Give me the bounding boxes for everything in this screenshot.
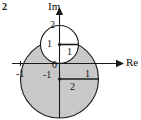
small-circle-radius-label: 1 [67, 47, 72, 57]
large-circle-center-dot [58, 77, 61, 80]
tick-label-im-two: 2 [50, 20, 55, 30]
figure-number-label: 2 [2, 2, 7, 12]
figure-container: 2 Im Re 0 2 1 1 -1 -1 1 2 [0, 0, 141, 120]
tick-label-im-one: 1 [47, 39, 52, 49]
small-circle-center-dot [58, 43, 61, 46]
complex-plane-figure [0, 0, 141, 120]
imaginary-axis-label: Im [48, 1, 60, 12]
origin-label: 0 [52, 60, 57, 70]
tick-label-re-negative-one: -1 [16, 69, 24, 79]
large-circle-radius-label: 2 [70, 82, 75, 92]
real-axis-arrowhead [116, 60, 124, 67]
tick-label-re-positive-one: 1 [85, 69, 90, 79]
tick-label-im-negative-one: -1 [43, 70, 51, 80]
real-axis-label: Re [126, 57, 138, 68]
